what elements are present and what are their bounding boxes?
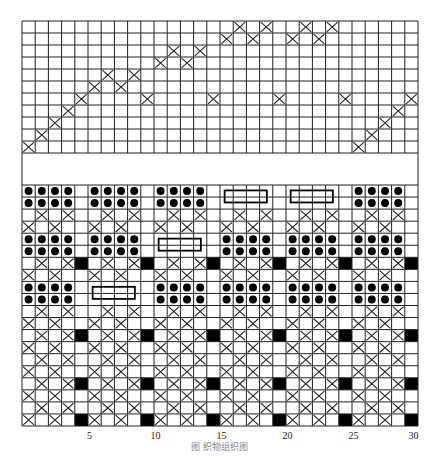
dot-mark-icon bbox=[302, 283, 310, 291]
dot-mark-icon bbox=[64, 199, 72, 207]
dot-mark-icon bbox=[51, 283, 59, 291]
cross-mark-icon bbox=[50, 118, 61, 128]
cross-mark-icon bbox=[366, 307, 377, 317]
cross-mark-icon bbox=[380, 415, 391, 425]
cross-mark-icon bbox=[195, 210, 206, 220]
cross-mark-icon bbox=[50, 367, 61, 377]
cross-mark-icon bbox=[261, 210, 272, 220]
dot-mark-icon bbox=[315, 247, 323, 255]
dot-mark-icon bbox=[368, 283, 376, 291]
cross-mark-icon bbox=[195, 403, 206, 413]
cross-mark-icon bbox=[89, 82, 100, 92]
black-cell bbox=[339, 378, 352, 390]
cross-mark-icon bbox=[36, 403, 47, 413]
cross-mark-icon bbox=[300, 22, 311, 32]
cross-mark-icon bbox=[221, 391, 232, 401]
dot-mark-icon bbox=[104, 235, 112, 243]
rectangle-bar-icon bbox=[291, 190, 333, 202]
black-cell bbox=[141, 330, 154, 342]
dot-mark-icon bbox=[381, 187, 389, 195]
dot-mark-icon bbox=[38, 199, 46, 207]
black-cell bbox=[339, 414, 352, 426]
cross-mark-icon bbox=[234, 379, 245, 389]
black-cell bbox=[75, 257, 88, 269]
dot-mark-icon bbox=[328, 235, 336, 243]
dot-mark-icon bbox=[38, 283, 46, 291]
black-cell bbox=[273, 257, 286, 269]
rectangle-bar-icon bbox=[93, 287, 135, 299]
cross-mark-icon bbox=[366, 403, 377, 413]
dot-mark-icon bbox=[196, 187, 204, 195]
cross-mark-icon bbox=[89, 415, 100, 425]
cross-mark-icon bbox=[129, 210, 140, 220]
cross-mark-icon bbox=[314, 271, 325, 281]
dot-mark-icon bbox=[51, 235, 59, 243]
cross-mark-icon bbox=[155, 222, 166, 232]
dot-mark-icon bbox=[236, 247, 244, 255]
dot-mark-icon bbox=[328, 295, 336, 303]
cross-mark-icon bbox=[168, 403, 179, 413]
cross-mark-icon bbox=[102, 331, 113, 341]
cross-mark-icon bbox=[208, 94, 219, 104]
cross-mark-icon bbox=[168, 210, 179, 220]
dot-mark-icon bbox=[394, 235, 402, 243]
cross-mark-icon bbox=[353, 319, 364, 329]
dot-mark-icon bbox=[117, 235, 125, 243]
cross-mark-icon bbox=[234, 210, 245, 220]
cross-mark-icon bbox=[63, 331, 74, 341]
dot-mark-icon bbox=[368, 247, 376, 255]
cross-mark-icon bbox=[353, 343, 364, 353]
cross-mark-icon bbox=[353, 415, 364, 425]
black-cell bbox=[75, 378, 88, 390]
cross-mark-icon bbox=[63, 259, 74, 269]
cross-mark-icon bbox=[50, 391, 61, 401]
cross-mark-icon bbox=[50, 271, 61, 281]
dot-mark-icon bbox=[183, 199, 191, 207]
black-cell bbox=[405, 257, 418, 269]
cross-mark-icon bbox=[314, 343, 325, 353]
dot-mark-icon bbox=[25, 295, 33, 303]
cross-mark-icon bbox=[393, 259, 404, 269]
cross-mark-icon bbox=[314, 319, 325, 329]
cross-mark-icon bbox=[314, 367, 325, 377]
cross-mark-icon bbox=[116, 367, 127, 377]
cross-mark-icon bbox=[63, 403, 74, 413]
cross-mark-icon bbox=[327, 379, 338, 389]
cross-mark-icon bbox=[366, 355, 377, 365]
top-threading-grid bbox=[22, 21, 418, 153]
cross-mark-icon bbox=[155, 319, 166, 329]
dot-mark-icon bbox=[355, 235, 363, 243]
cross-mark-icon bbox=[327, 259, 338, 269]
cross-mark-icon bbox=[129, 70, 140, 80]
cross-mark-icon bbox=[406, 94, 417, 104]
dot-mark-icon bbox=[394, 247, 402, 255]
cross-mark-icon bbox=[89, 391, 100, 401]
cross-mark-icon bbox=[327, 307, 338, 317]
cross-mark-icon bbox=[129, 307, 140, 317]
dot-mark-icon bbox=[249, 283, 257, 291]
cross-mark-icon bbox=[393, 403, 404, 413]
cross-mark-icon bbox=[36, 379, 47, 389]
dot-mark-icon bbox=[170, 295, 178, 303]
rectangle-bar-icon bbox=[159, 239, 201, 251]
dot-mark-icon bbox=[355, 187, 363, 195]
black-cell bbox=[405, 378, 418, 390]
dot-mark-icon bbox=[355, 199, 363, 207]
dot-mark-icon bbox=[117, 199, 125, 207]
dot-mark-icon bbox=[130, 187, 138, 195]
dot-mark-icon bbox=[355, 295, 363, 303]
cross-mark-icon bbox=[248, 367, 259, 377]
cross-mark-icon bbox=[221, 34, 232, 44]
cross-mark-icon bbox=[366, 259, 377, 269]
dot-mark-icon bbox=[262, 283, 270, 291]
cross-mark-icon bbox=[248, 271, 259, 281]
dot-mark-icon bbox=[236, 235, 244, 243]
cross-mark-icon bbox=[36, 331, 47, 341]
cross-mark-icon bbox=[195, 331, 206, 341]
black-cell bbox=[207, 414, 220, 426]
cross-mark-icon bbox=[300, 379, 311, 389]
cross-mark-icon bbox=[300, 259, 311, 269]
bottom-pattern-grid bbox=[22, 185, 418, 426]
cross-mark-icon bbox=[261, 355, 272, 365]
cross-mark-icon bbox=[89, 343, 100, 353]
